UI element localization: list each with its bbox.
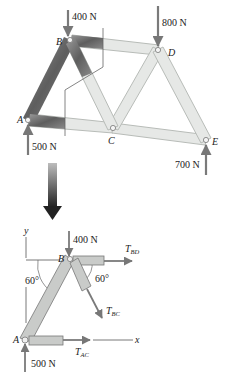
x-axis-label: x <box>134 334 140 345</box>
fbd-joint-a-label: A <box>12 334 20 345</box>
fbd-pin-b <box>67 256 72 261</box>
truss-diagram: 400 N 800 N 500 N 700 N B D A C E y x 60… <box>0 0 232 382</box>
fbd-member-ab <box>20 255 74 342</box>
transition-arrow-icon <box>43 163 62 220</box>
t-bc-subscript: BC <box>112 310 121 317</box>
fbd-joint-b-label: B <box>58 253 64 264</box>
full-truss: 400 N 800 N 500 N 700 N B D A C E <box>16 6 218 175</box>
load-b-label: 400 N <box>72 11 97 22</box>
t-bc-arrow-icon <box>87 289 102 318</box>
pin-e <box>203 137 208 142</box>
fbd-load-500-label: 500 N <box>31 358 56 369</box>
pin-a <box>25 117 30 122</box>
fbd-member-ac-stub <box>29 336 63 345</box>
t-bc-label: TBC <box>106 305 121 317</box>
fbd-pin-a <box>22 337 28 343</box>
load-e-label: 700 N <box>175 159 200 170</box>
angle-right-label: 60° <box>95 273 109 284</box>
free-body-diagram: y x 60° 60° 400 N 500 N B A TBD <box>12 225 140 372</box>
member-ab-dark <box>23 37 75 124</box>
t-bd-label: TBD <box>125 243 140 255</box>
pin-c <box>110 125 115 130</box>
load-a-label: 500 N <box>32 141 57 152</box>
pin-d <box>155 47 160 52</box>
pin-b <box>67 37 72 42</box>
truss-members <box>28 35 211 145</box>
joint-c-label: C <box>108 135 115 146</box>
fbd-load-400-label: 400 N <box>73 234 98 245</box>
load-d-label: 800 N <box>162 17 187 28</box>
joint-e-label: E <box>211 136 218 147</box>
t-ac-subscript: AC <box>80 351 90 358</box>
angle-left-label: 60° <box>25 275 39 286</box>
member-cd <box>108 47 163 130</box>
joint-b-label: B <box>56 36 62 47</box>
joint-a-label: A <box>16 114 24 125</box>
joint-d-label: D <box>167 47 176 58</box>
member-de <box>153 47 211 143</box>
t-bd-subscript: BD <box>131 248 140 255</box>
y-axis-label: y <box>23 225 29 236</box>
t-ac-label: TAC <box>75 346 90 358</box>
